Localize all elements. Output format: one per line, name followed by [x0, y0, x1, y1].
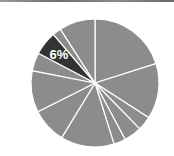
highlighted-slice-label: 6% — [50, 47, 69, 62]
pie-chart: 6% — [0, 0, 174, 156]
pie-slices — [31, 19, 159, 147]
